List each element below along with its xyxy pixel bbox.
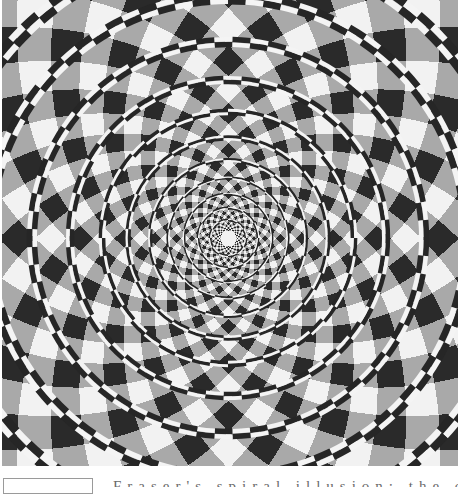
caption-label-box (3, 478, 93, 494)
fraser-spiral-illusion-image (2, 0, 458, 466)
figure-caption-cropped: Fraser's spiral illusion: the concentric… (113, 475, 458, 487)
